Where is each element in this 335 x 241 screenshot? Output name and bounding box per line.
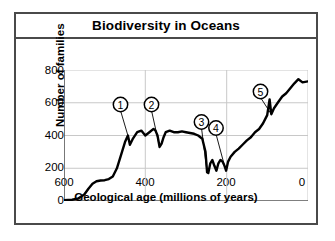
y-tick-200: 200: [34, 162, 64, 173]
biodiversity-curve: [64, 79, 308, 200]
annotation-label-4: 4: [213, 122, 219, 134]
annotation-marker-4: 4: [209, 121, 223, 135]
annotation-label-1: 1: [118, 99, 124, 111]
chart-area: Number of families 800 600 400 200 0 600…: [16, 39, 316, 225]
annotation-label-5: 5: [258, 86, 264, 98]
page-title: Biodiversity in Oceans: [92, 18, 240, 33]
y-tick-800: 800: [34, 65, 64, 76]
annotation-label-3: 3: [199, 116, 205, 128]
y-tick-400: 400: [34, 130, 64, 141]
annotation-marker-1: 1: [113, 97, 127, 111]
y-tick-600: 600: [34, 97, 64, 108]
annotation-marker-3: 3: [194, 115, 208, 129]
annotation-marker-5: 5: [253, 84, 267, 98]
annotation-markers: 1 2 3 4 5: [113, 84, 267, 135]
chart-card: Biodiversity in Oceans Number of familie…: [14, 12, 318, 225]
annotation-label-2: 2: [149, 99, 155, 111]
annotation-marker-2: 2: [144, 97, 158, 111]
plot-region: 1 2 3 4 5: [64, 70, 308, 201]
x-axis-label: Geological age (millions of years): [16, 191, 316, 203]
